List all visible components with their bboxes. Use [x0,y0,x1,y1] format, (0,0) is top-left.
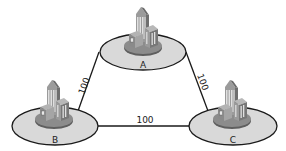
city-buildings-icon [124,7,162,56]
edge-label-a-b: 100 [77,76,92,96]
edge-label-b-c: 100 [136,115,153,125]
node-a-label: A [140,60,147,70]
city-buildings-icon [213,80,251,129]
network-diagram: 100 100 100 A B C [0,0,286,151]
node-b-label: B [52,135,58,145]
city-buildings-icon [35,80,73,129]
node-a: A [100,7,186,70]
node-c-label: C [230,135,236,145]
